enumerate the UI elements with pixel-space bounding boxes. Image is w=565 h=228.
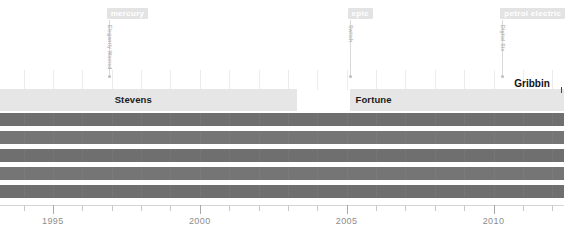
gridline-vertical	[259, 70, 260, 90]
bar-gridline	[53, 167, 54, 180]
gridline-vertical	[24, 70, 25, 90]
gridline-vertical	[288, 70, 289, 90]
bar-gridline	[141, 185, 142, 198]
bar-gridline	[376, 149, 377, 162]
bar-gridline	[494, 167, 495, 180]
gridline-vertical	[170, 70, 171, 90]
bar-gridline	[200, 185, 201, 198]
bar-gridline	[523, 113, 524, 126]
bar-gridline	[53, 113, 54, 126]
bar-gridline	[141, 149, 142, 162]
bar-gridline	[170, 149, 171, 162]
axis-tick-major	[200, 205, 201, 214]
gridline-vertical	[347, 70, 348, 90]
bar-gridline	[317, 167, 318, 180]
bar-gridline	[464, 149, 465, 162]
bar-gridline	[229, 185, 230, 198]
bar-gridline	[229, 167, 230, 180]
data-bar-row[interactable]	[0, 131, 564, 144]
era-band[interactable]	[502, 89, 564, 111]
bar-gridline	[229, 131, 230, 144]
bar-gridline	[494, 131, 495, 144]
bar-gridline	[112, 185, 113, 198]
gridline-vertical	[376, 70, 377, 90]
axis-tick-minor	[112, 205, 113, 211]
bar-gridline	[552, 185, 553, 198]
axis-tick-minor	[464, 205, 465, 211]
bar-gridline	[259, 167, 260, 180]
axis-tick-label: 2005	[336, 216, 358, 226]
bar-gridline	[82, 113, 83, 126]
bar-gridline	[494, 185, 495, 198]
marker-dot	[349, 75, 352, 78]
marker-tag-petrol-electric[interactable]: petrol electric	[500, 8, 565, 19]
gridline-vertical	[405, 70, 406, 90]
bar-gridline	[552, 167, 553, 180]
data-bar-row[interactable]	[0, 149, 564, 162]
axis-tick-major	[494, 205, 495, 214]
callout-label[interactable]: Gribbin	[514, 78, 550, 89]
axis-tick-minor	[259, 205, 260, 211]
axis-tick-minor	[170, 205, 171, 211]
bar-gridline	[82, 131, 83, 144]
bar-gridline	[24, 113, 25, 126]
axis-tick-minor	[376, 205, 377, 211]
bar-gridline	[141, 131, 142, 144]
bar-gridline	[376, 113, 377, 126]
axis-tick-minor	[141, 205, 142, 211]
bar-gridline	[523, 185, 524, 198]
bar-gridline	[405, 113, 406, 126]
era-band-label: Stevens	[115, 89, 152, 111]
bar-gridline	[24, 185, 25, 198]
axis-tick-minor	[317, 205, 318, 211]
bar-gridline	[405, 149, 406, 162]
gridline-vertical	[112, 70, 113, 90]
bar-gridline	[200, 167, 201, 180]
data-bar-row[interactable]	[0, 167, 564, 180]
bar-gridline	[82, 149, 83, 162]
axis-tick-minor	[552, 205, 553, 211]
bar-gridline	[112, 131, 113, 144]
bar-gridline	[552, 113, 553, 126]
bar-gridline	[82, 167, 83, 180]
bar-gridline	[200, 149, 201, 162]
axis-tick-minor	[82, 205, 83, 211]
bar-gridline	[435, 185, 436, 198]
gridline-vertical	[317, 70, 318, 90]
bar-gridline	[435, 167, 436, 180]
bar-gridline	[494, 149, 495, 162]
data-bar-row[interactable]	[0, 185, 564, 198]
bar-gridline	[317, 149, 318, 162]
gridline-vertical	[552, 70, 553, 90]
bar-gridline	[141, 167, 142, 180]
bar-gridline	[464, 185, 465, 198]
gridline-vertical	[200, 70, 201, 90]
era-band-row: StevensFortune	[0, 89, 564, 111]
bar-gridline	[259, 131, 260, 144]
marker-vertical-label: Elegantly Wasted	[107, 25, 113, 69]
marker-vertical-label: Digital Six	[500, 25, 506, 51]
bar-gridline	[464, 131, 465, 144]
axis-tick-label: 2000	[189, 216, 211, 226]
bar-gridline	[405, 167, 406, 180]
axis-tick-minor	[24, 205, 25, 211]
bar-gridline	[317, 185, 318, 198]
callout-tick	[561, 87, 562, 93]
bar-gridline	[53, 149, 54, 162]
bar-gridline	[170, 185, 171, 198]
era-band[interactable]	[0, 89, 109, 111]
marker-tag-mercury[interactable]: mercury	[107, 8, 149, 19]
axis-tick-major	[347, 205, 348, 214]
data-bar-row[interactable]	[0, 113, 564, 126]
gridline-vertical	[464, 70, 465, 90]
bar-gridline	[552, 131, 553, 144]
bar-gridline	[405, 131, 406, 144]
bar-gridline	[523, 131, 524, 144]
bar-gridline	[24, 131, 25, 144]
bar-gridline	[259, 113, 260, 126]
marker-tag-epic[interactable]: epic	[348, 8, 373, 19]
bar-gridline	[288, 113, 289, 126]
axis-tick-minor	[229, 205, 230, 211]
axis-tick-minor	[288, 205, 289, 211]
